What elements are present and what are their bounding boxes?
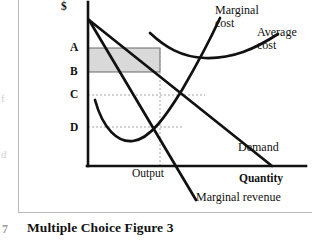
average-cost-label: Average cost <box>257 26 297 52</box>
y-tick-label-a: A <box>70 41 78 53</box>
figure-caption-row: 7 Multiple Choice Figure 3 <box>0 218 313 240</box>
x-axis-label: Quantity <box>239 172 283 184</box>
average-cost-label-line1: Average <box>257 25 297 39</box>
marginal-cost-label: Marginal cost <box>215 4 259 30</box>
marginal-revenue-label: Marginal revenue <box>196 191 281 204</box>
figure-caption: Multiple Choice Figure 3 <box>27 220 174 236</box>
margin-artifact-glyph: d <box>1 148 7 160</box>
margin-artifact-glyph: f <box>1 92 5 104</box>
y-axis-label: $ <box>61 0 67 12</box>
average-cost-label-line2: cost <box>257 38 276 52</box>
caption-marker: 7 <box>2 222 8 237</box>
y-tick-label-c: C <box>70 88 78 100</box>
y-tick-label-b: B <box>70 65 78 77</box>
demand-label: Demand <box>238 141 279 154</box>
y-tick-label-d: D <box>70 121 78 133</box>
marginal-cost-curve <box>95 18 220 141</box>
marginal-cost-label-line1: Marginal <box>215 3 259 17</box>
output-marker-label: Output <box>132 167 164 179</box>
marginal-cost-label-line2: cost <box>215 16 234 30</box>
